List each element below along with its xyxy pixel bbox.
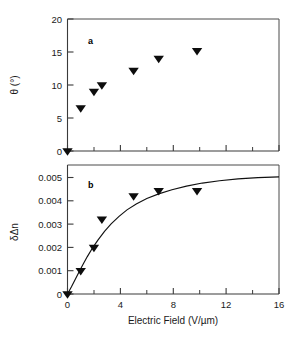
panel-b-x-ticks bbox=[68, 288, 280, 294]
panel-b-ytick-label-0001: 0.001 bbox=[38, 265, 62, 276]
panel-a-y-axis-title: θ (°) bbox=[9, 76, 20, 95]
xtick-label-0: 0 bbox=[65, 299, 70, 310]
xtick-label-16: 16 bbox=[274, 299, 285, 310]
data-point-marker bbox=[154, 188, 164, 196]
panel-a-ytick-label-15: 15 bbox=[51, 47, 62, 58]
panel-b-label: b bbox=[88, 180, 94, 190]
panel-a-data-markers bbox=[62, 48, 202, 156]
panel-a-ytick-label-20: 20 bbox=[51, 14, 62, 25]
data-point-marker bbox=[76, 268, 86, 276]
panel-b-fit-curve bbox=[68, 177, 280, 294]
panel-a-ytick-label-5: 5 bbox=[57, 113, 62, 124]
panel-b-y-ticks bbox=[68, 178, 74, 295]
panel-a-ytick-label-10: 10 bbox=[51, 80, 62, 91]
data-point-marker bbox=[76, 105, 86, 113]
data-point-marker bbox=[62, 291, 72, 299]
xtick-label-12: 12 bbox=[221, 299, 232, 310]
panel-a-ytick-label-0: 0 bbox=[57, 146, 62, 157]
xtick-label-8: 8 bbox=[171, 299, 176, 310]
data-point-marker bbox=[97, 216, 107, 224]
panel-a-x-ticks bbox=[68, 145, 280, 151]
data-point-marker bbox=[62, 148, 72, 156]
panel-b-ytick-label-0003: 0.003 bbox=[38, 219, 62, 230]
panel-b-ytick-label-0005: 0.005 bbox=[38, 172, 62, 183]
data-point-marker bbox=[128, 68, 138, 76]
two-panel-scatter-figure: 20 15 10 5 0 θ (°) a bbox=[0, 0, 301, 337]
panel-b-frame bbox=[68, 165, 280, 294]
panel-b-ytick-label-0002: 0.002 bbox=[38, 242, 62, 253]
panel-b: 0.005 0.004 0.003 0.002 0.001 0 δΔn b 0 … bbox=[9, 165, 284, 326]
x-axis-title: Electric Field (V/µm) bbox=[128, 315, 218, 326]
panel-b-y-axis-title: δΔn bbox=[9, 223, 20, 241]
data-point-marker bbox=[154, 56, 164, 64]
figure-container: 20 15 10 5 0 θ (°) a bbox=[0, 0, 301, 337]
panel-a-y-ticks bbox=[68, 19, 74, 151]
panel-a-label: a bbox=[88, 36, 94, 46]
data-point-marker bbox=[128, 193, 138, 201]
panel-a: 20 15 10 5 0 θ (°) a bbox=[9, 14, 279, 157]
data-point-marker bbox=[192, 188, 202, 196]
panel-b-ytick-label-0004: 0.004 bbox=[38, 195, 62, 206]
xtick-label-4: 4 bbox=[118, 299, 123, 310]
data-point-marker bbox=[192, 48, 202, 56]
panel-b-data-markers bbox=[62, 188, 202, 299]
data-point-marker bbox=[97, 82, 107, 90]
data-point-marker bbox=[89, 89, 99, 97]
panel-b-ytick-label-0: 0 bbox=[57, 289, 62, 300]
